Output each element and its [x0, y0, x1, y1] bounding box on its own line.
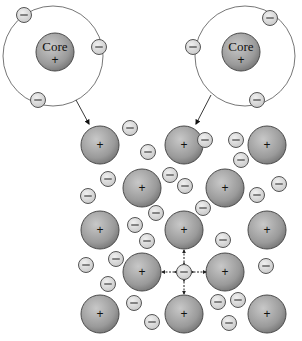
- lattice-core: +: [165, 126, 203, 164]
- lattice-core: +: [81, 295, 119, 333]
- lattice-core: +: [248, 211, 286, 249]
- lattice-core: +: [81, 126, 119, 164]
- free-electron: [140, 234, 155, 249]
- lattice-core: +: [81, 211, 119, 249]
- plus-sign-icon: +: [180, 223, 187, 237]
- free-electron: [123, 121, 138, 136]
- free-electron: [163, 168, 178, 183]
- free-electron: [109, 252, 124, 267]
- valence-electron: [31, 93, 46, 108]
- free-electron: [145, 315, 160, 330]
- free-electron: [81, 189, 96, 204]
- plus-sign-icon: +: [180, 307, 187, 321]
- free-electron: [198, 133, 213, 148]
- free-electron: [141, 145, 156, 160]
- free-electron: [211, 295, 226, 310]
- free-electron: [101, 277, 116, 292]
- plus-sign-icon: +: [96, 307, 103, 321]
- free-electron: [231, 293, 246, 308]
- plus-sign-icon: +: [96, 138, 103, 152]
- metallic-bonding-diagram: Core+Core+ +++++++++++++: [0, 0, 302, 341]
- core-label: Core: [228, 39, 254, 54]
- plus-sign-icon: +: [263, 307, 270, 321]
- isolated-atoms: Core+Core+: [3, 6, 295, 124]
- core-label: Core: [42, 39, 68, 54]
- valence-electron: [17, 8, 32, 23]
- valence-electron: [250, 93, 265, 108]
- free-electron: [234, 153, 249, 168]
- arrow-icon: [76, 100, 89, 124]
- free-electron: [259, 259, 274, 274]
- free-electron: [250, 188, 265, 203]
- atom-left: Core+: [3, 6, 107, 124]
- highlighted-electron: [177, 265, 192, 280]
- plus-sign-icon: +: [221, 181, 228, 195]
- highlighted-electron-attractions: [162, 250, 206, 294]
- plus-sign-icon: +: [263, 138, 270, 152]
- atom-core: Core+: [222, 33, 260, 71]
- atom-right: Core+: [186, 6, 296, 124]
- lattice-core: +: [248, 295, 286, 333]
- plus-sign-icon: +: [221, 265, 228, 279]
- atom-core: Core+: [36, 33, 74, 71]
- free-electron: [216, 233, 231, 248]
- plus-sign-icon: +: [51, 53, 58, 67]
- arrow-icon: [196, 95, 211, 124]
- lattice-core: +: [165, 211, 203, 249]
- free-electron: [79, 258, 94, 273]
- plus-sign-icon: +: [138, 265, 145, 279]
- free-electron: [229, 133, 244, 148]
- plus-sign-icon: +: [180, 138, 187, 152]
- free-electron: [101, 172, 116, 187]
- free-electron: [196, 201, 211, 216]
- free-electron: [149, 206, 164, 221]
- free-electron: [128, 218, 143, 233]
- free-electron: [272, 177, 287, 192]
- plus-sign-icon: +: [237, 53, 244, 67]
- valence-electron: [263, 11, 278, 26]
- lattice-core: +: [123, 253, 161, 291]
- free-electron: [178, 179, 193, 194]
- lattice-core: +: [206, 169, 244, 207]
- plus-sign-icon: +: [96, 223, 103, 237]
- free-electron: [127, 296, 142, 311]
- plus-sign-icon: +: [263, 223, 270, 237]
- lattice-core: +: [123, 169, 161, 207]
- lattice-core: +: [248, 126, 286, 164]
- plus-sign-icon: +: [138, 181, 145, 195]
- valence-electron: [92, 40, 107, 55]
- lattice-core: +: [165, 295, 203, 333]
- valence-electron: [186, 40, 201, 55]
- lattice-core: +: [206, 253, 244, 291]
- free-electron: [222, 316, 237, 331]
- metal-lattice: +++++++++++++: [79, 121, 287, 334]
